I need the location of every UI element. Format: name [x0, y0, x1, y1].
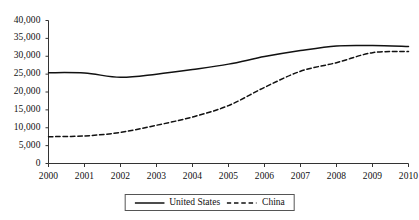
legend-item-united-states: United States: [134, 198, 220, 208]
x-axis-tick-label: 2006: [245, 172, 285, 182]
x-axis-tick-label: 2009: [353, 172, 393, 182]
x-axis-tick-label: 2002: [101, 172, 141, 182]
line-chart: 05,00010,00015,00020,00025,00030,00035,0…: [0, 0, 419, 220]
x-axis-tick-label: 2010: [389, 172, 419, 182]
chart-legend: United States China: [124, 194, 295, 211]
x-axis-tick-label: 2005: [209, 172, 249, 182]
legend-item-china: China: [227, 198, 285, 208]
y-axis-tick-label: 20,000: [0, 87, 41, 97]
y-axis-tick-label: 25,000: [0, 69, 41, 79]
y-axis-tick-label: 10,000: [0, 123, 41, 133]
x-axis-tick-label: 2001: [65, 172, 105, 182]
y-axis-tick-label: 35,000: [0, 33, 41, 43]
legend-label-united-states: United States: [169, 198, 220, 208]
y-axis-tick-label: 30,000: [0, 51, 41, 61]
x-axis-ticks: [49, 164, 409, 168]
x-axis-tick-label: 2007: [281, 172, 321, 182]
y-axis-tick-label: 15,000: [0, 105, 41, 115]
y-axis-tick-label: 0: [0, 159, 41, 169]
plot-area: [0, 0, 419, 220]
y-axis-tick-label: 40,000: [0, 16, 41, 26]
x-axis-tick-label: 2004: [173, 172, 213, 182]
x-axis-tick-label: 2003: [137, 172, 177, 182]
x-axis-tick-label: 2008: [317, 172, 357, 182]
y-axis-tick-label: 5,000: [0, 141, 41, 151]
dashed-line-icon: [227, 199, 257, 207]
legend-label-china: China: [262, 198, 285, 208]
series-line-united-states: [49, 45, 409, 77]
solid-line-icon: [134, 199, 164, 207]
x-axis-tick-label: 2000: [29, 172, 69, 182]
